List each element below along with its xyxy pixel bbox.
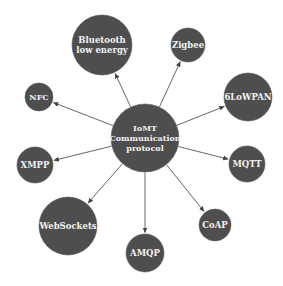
edge-arrow-websockets <box>88 164 122 203</box>
node-amqp: AMQP <box>126 234 164 272</box>
node-label: Zigbee <box>172 40 205 50</box>
node-label: IoMT <box>133 123 157 133</box>
node-label: NFC <box>29 92 48 102</box>
node-nfc: NFC <box>25 83 53 111</box>
node-label: 6LoWPAN <box>224 92 271 102</box>
node-ble: Bluetoothlow energy <box>72 15 132 75</box>
center-node-group: IoMTCommunicationprotocol <box>109 104 180 172</box>
node-label: WebSockets <box>38 221 96 231</box>
node-label: XMPP <box>21 160 50 170</box>
node-label: low energy <box>76 45 129 55</box>
node-label: protocol <box>126 143 163 153</box>
node-zigbee: Zigbee <box>171 28 205 62</box>
node-mqtt: MQTT <box>229 146 265 182</box>
edge-arrow-coap <box>167 165 204 211</box>
edge-arrow-nfc <box>53 103 112 126</box>
edge-arrow-mqtt <box>178 147 228 160</box>
node-label: Bluetooth <box>78 35 125 45</box>
node-label: CoAP <box>202 220 228 230</box>
edge-arrow-xmpp <box>54 146 112 160</box>
edge-arrow-zigbee <box>159 62 180 107</box>
node-label: MQTT <box>232 159 262 169</box>
node-websockets: WebSockets <box>38 197 97 255</box>
edge-arrow-6lowpan <box>177 106 224 125</box>
protocol-diagram: Bluetoothlow energyZigbeeNFC6LoWPANXMPPM… <box>0 0 283 286</box>
node-coap: CoAP <box>199 209 231 241</box>
edge-arrow-ble <box>115 74 130 107</box>
node-6lowpan: 6LoWPAN <box>224 73 272 121</box>
node-xmpp: XMPP <box>17 147 53 183</box>
node-label: AMQP <box>129 248 160 258</box>
node-center-iomt: IoMTCommunicationprotocol <box>109 104 180 172</box>
node-label: Communication <box>109 133 180 143</box>
